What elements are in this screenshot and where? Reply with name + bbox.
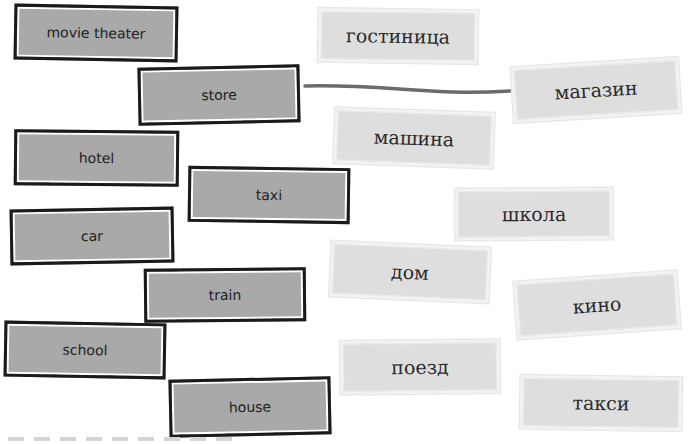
card-label: кино bbox=[572, 292, 622, 317]
card-label: магазин bbox=[554, 76, 638, 103]
russian-card-taksi[interactable]: такси bbox=[520, 375, 683, 431]
dashed-bottom-border bbox=[8, 437, 232, 441]
card-label: school bbox=[62, 342, 107, 359]
card-label: car bbox=[81, 228, 103, 244]
card-label: hotel bbox=[79, 150, 115, 166]
russian-card-gostinitsa[interactable]: гостиница bbox=[318, 8, 479, 64]
card-label: поезд bbox=[391, 356, 449, 379]
russian-card-poezd[interactable]: поезд bbox=[340, 339, 501, 395]
card-label: house bbox=[229, 399, 272, 416]
dash bbox=[112, 437, 128, 441]
english-card-house[interactable]: house bbox=[168, 376, 331, 437]
card-label: train bbox=[209, 287, 242, 303]
english-card-train[interactable]: train bbox=[144, 267, 307, 323]
dash bbox=[60, 437, 76, 441]
dash bbox=[8, 437, 24, 441]
russian-card-shkola[interactable]: школа bbox=[455, 188, 613, 241]
dash bbox=[34, 437, 50, 441]
english-card-movie-theater[interactable]: movie theater bbox=[14, 4, 179, 63]
english-card-store[interactable]: store bbox=[137, 64, 300, 125]
english-card-taxi[interactable]: taxi bbox=[188, 166, 351, 224]
card-label: taxi bbox=[256, 187, 282, 203]
card-label: store bbox=[201, 87, 237, 104]
dash bbox=[86, 437, 102, 441]
card-label: дом bbox=[391, 260, 430, 284]
card-label: такси bbox=[572, 392, 629, 415]
russian-card-mashina[interactable]: машина bbox=[333, 107, 495, 169]
dash bbox=[138, 437, 154, 441]
dash bbox=[164, 437, 180, 441]
dash bbox=[216, 437, 232, 441]
card-label: гостиница bbox=[346, 24, 450, 47]
english-card-school[interactable]: school bbox=[4, 321, 167, 380]
english-card-car[interactable]: car bbox=[10, 207, 175, 266]
card-label: movie theater bbox=[46, 24, 145, 42]
russian-card-dom[interactable]: дом bbox=[329, 241, 491, 304]
russian-card-kino[interactable]: кино bbox=[513, 270, 681, 339]
english-card-hotel[interactable]: hotel bbox=[14, 129, 180, 187]
russian-card-magazin[interactable]: магазин bbox=[510, 57, 681, 123]
card-label: машина bbox=[373, 126, 454, 151]
dash bbox=[190, 437, 206, 441]
connection-line-store-magazin bbox=[305, 86, 510, 93]
card-label: школа bbox=[502, 203, 567, 225]
